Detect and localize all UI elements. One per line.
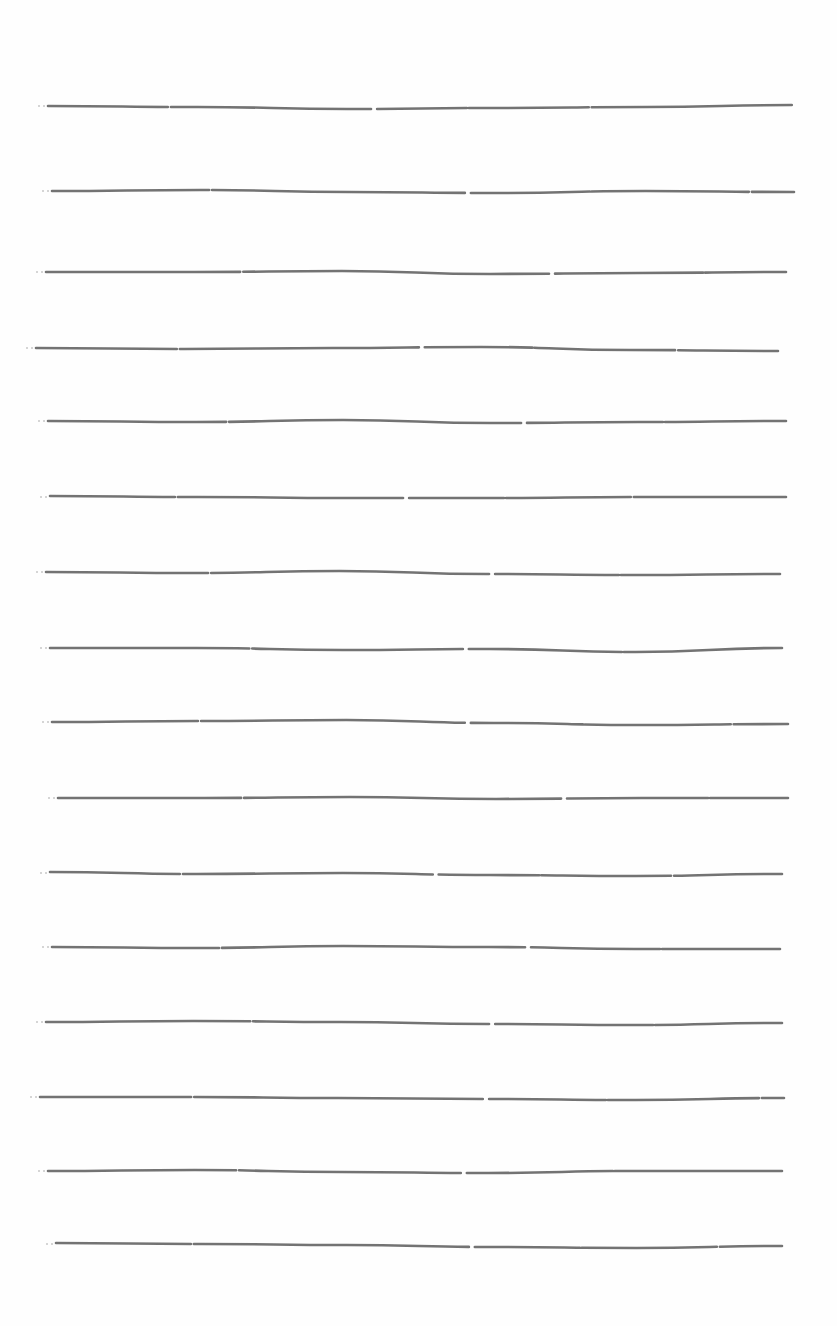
ruled-line <box>46 271 786 274</box>
ruled-page <box>0 0 837 1326</box>
ruled-line <box>50 872 782 876</box>
ruled-line <box>52 946 780 949</box>
ruled-line <box>40 1097 784 1100</box>
ruled-line <box>58 797 788 799</box>
ruled-line <box>46 571 780 575</box>
ruled-line <box>46 1021 782 1025</box>
ruled-line <box>52 720 788 725</box>
ruled-line <box>56 1243 782 1248</box>
ruled-line <box>52 190 794 193</box>
ruled-line <box>50 496 786 498</box>
ruled-line <box>48 105 796 109</box>
ruled-lines <box>0 0 837 1326</box>
ruled-line <box>48 420 786 423</box>
ruled-line <box>50 648 782 652</box>
ruled-line <box>36 347 778 351</box>
ruled-line <box>48 1170 782 1173</box>
